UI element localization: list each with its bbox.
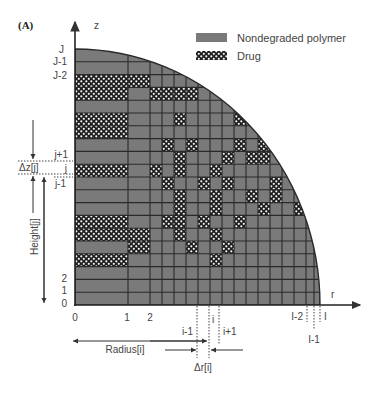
drug-cell — [128, 241, 150, 254]
z-axis-label: z — [94, 20, 99, 31]
radius-label: Radius[i] — [106, 344, 145, 355]
drug-cell — [150, 87, 162, 100]
drug-cell — [258, 62, 270, 75]
drug-cell — [246, 151, 258, 164]
height-label: Height[j] — [29, 218, 40, 255]
z-label-2: 2 — [61, 273, 67, 284]
diagram-canvas: (A) Nondegraded polymer Drug z r J J-1 J… — [0, 0, 365, 393]
z-label-J: J — [59, 44, 64, 55]
drug-cell — [150, 164, 162, 177]
drug-cell — [234, 87, 246, 100]
drug-cell — [75, 215, 128, 228]
drug-cell — [210, 190, 222, 203]
r-label-2: 2 — [147, 312, 153, 323]
drug-cell — [314, 113, 320, 126]
drug-cell — [75, 254, 128, 267]
drug-cell — [174, 228, 186, 241]
drug-cell — [234, 139, 246, 152]
drug-cell — [270, 113, 282, 126]
drug-cell — [128, 75, 150, 88]
drug-cell — [162, 215, 174, 228]
z-label-1: 1 — [61, 285, 67, 296]
drug-cell — [210, 254, 222, 267]
drug-cell — [222, 151, 234, 164]
r-label-i-minus-1: i-1 — [182, 326, 194, 337]
r-axis-label: r — [331, 289, 335, 300]
r-label-0: 0 — [72, 312, 78, 323]
drug-cell — [246, 190, 258, 203]
drug-cell — [258, 151, 270, 164]
delta-r-label: Δr[i] — [194, 362, 212, 373]
drug-cell — [174, 164, 186, 177]
drug-band — [75, 113, 128, 126]
drug-cell — [258, 100, 270, 113]
z-label-J-2: J-2 — [53, 70, 67, 81]
drug-cell — [174, 87, 186, 100]
r-label-i: i — [212, 314, 214, 325]
drug-cell — [246, 100, 258, 113]
drug-cell — [174, 215, 186, 228]
drug-cell — [258, 203, 270, 216]
drug-cell — [210, 203, 222, 216]
polymer-grid — [75, 40, 335, 310]
drug-cell — [294, 100, 306, 113]
drug-cell — [294, 62, 306, 75]
drug-cell — [162, 139, 174, 152]
drug-cell — [222, 177, 234, 190]
z-label-j: j — [64, 163, 67, 174]
drug-cell — [222, 241, 234, 254]
drug-cell — [270, 126, 282, 139]
drug-cell — [162, 87, 174, 100]
drug-cell — [234, 215, 246, 228]
drug-cell — [198, 177, 210, 190]
drug-cell — [270, 62, 282, 75]
drug-cell — [246, 87, 258, 100]
z-label-0: 0 — [61, 298, 67, 309]
drug-cell — [186, 139, 198, 152]
r-label-I-1: I-1 — [308, 334, 320, 345]
drug-cell — [270, 177, 282, 190]
drug-cell — [314, 126, 320, 139]
r-label-I: I — [324, 311, 327, 322]
drug-cell — [210, 164, 222, 177]
drug-cell — [258, 139, 270, 152]
legend-swatch-drug — [196, 51, 227, 60]
r-label-1: 1 — [124, 312, 130, 323]
legend-label-polymer: Nondegraded polymer — [237, 32, 346, 44]
drug-cell — [198, 215, 210, 228]
z-label-j-minus-1: j-1 — [54, 178, 67, 189]
drug-cell — [270, 190, 282, 203]
drug-cell — [186, 241, 198, 254]
drug-cell — [234, 62, 246, 75]
drug-cell — [174, 151, 186, 164]
drug-cell — [174, 203, 186, 216]
legend: Nondegraded polymer Drug — [196, 32, 346, 62]
drug-cell — [306, 164, 314, 177]
drug-cell — [210, 228, 222, 241]
drug-cell — [75, 75, 128, 88]
drug-cell — [174, 113, 186, 126]
drug-cell — [128, 228, 150, 241]
z-label-J-1: J-1 — [53, 56, 67, 67]
drug-cell — [186, 87, 198, 100]
drug-cell — [186, 62, 198, 75]
panel-label: (A) — [18, 19, 34, 32]
delta-z-label: Δz[j] — [19, 162, 39, 173]
r-label-I-2: I-2 — [291, 311, 303, 322]
z-label-j-plus-1: j+1 — [53, 149, 68, 160]
r-label-i-plus-1: i+1 — [223, 326, 237, 337]
drug-band — [75, 228, 128, 241]
drug-cell — [162, 177, 174, 190]
drug-band — [75, 87, 128, 100]
legend-swatch-polymer — [196, 33, 227, 42]
legend-label-drug: Drug — [237, 50, 261, 62]
drug-cell — [174, 190, 186, 203]
drug-band — [75, 164, 128, 177]
drug-band — [75, 126, 128, 139]
